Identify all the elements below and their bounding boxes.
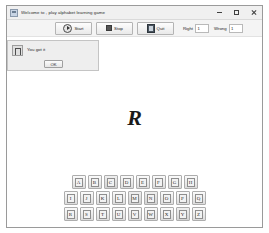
key-g-label: G — [171, 178, 179, 187]
key-z-label: Z — [195, 210, 203, 219]
minimize-icon — [217, 12, 222, 13]
key-b[interactable]: B — [88, 175, 102, 189]
close-icon — [251, 10, 257, 16]
key-row-2: I J K L M N O P Q — [64, 191, 206, 205]
key-x[interactable]: X — [160, 207, 174, 221]
key-j-label: J — [83, 194, 91, 203]
maximize-icon — [234, 10, 239, 15]
key-n[interactable]: N — [144, 191, 158, 205]
quit-button[interactable]: Quit — [137, 22, 174, 35]
app-window-icon — [10, 9, 18, 17]
close-button[interactable] — [245, 6, 262, 19]
key-e[interactable]: E — [136, 175, 150, 189]
key-h-label: H — [187, 178, 195, 187]
title-bar: Welcome to , play alphabet learning game — [7, 6, 262, 20]
key-a[interactable]: A — [72, 175, 86, 189]
key-w-label: W — [147, 210, 155, 219]
key-i[interactable]: I — [64, 191, 78, 205]
key-o[interactable]: O — [160, 191, 174, 205]
key-s[interactable]: S — [80, 207, 94, 221]
key-u[interactable]: U — [112, 207, 126, 221]
right-counter: Right 1 — [183, 24, 209, 33]
key-o-label: O — [163, 194, 171, 203]
wrong-counter-value[interactable]: 1 — [229, 24, 243, 33]
alphabet-keyboard: A B C D E F G H I J K L M N O P Q R — [7, 175, 262, 221]
window-title: Welcome to , play alphabet learning game — [21, 10, 211, 15]
key-m[interactable]: M — [128, 191, 142, 205]
key-q[interactable]: Q — [192, 191, 206, 205]
key-v-label: V — [131, 210, 139, 219]
key-m-label: M — [131, 194, 139, 203]
key-j[interactable]: J — [80, 191, 94, 205]
wrong-counter-label: Wrong — [214, 26, 227, 31]
key-z[interactable]: Z — [192, 207, 206, 221]
key-f-label: F — [155, 178, 163, 187]
key-a-label: A — [75, 178, 83, 187]
client-area: You got it OK R A B C D E F G H I J K L — [7, 37, 262, 227]
toolbar: Start Stop Quit Right 1 Wrong 1 — [7, 20, 262, 37]
key-c-label: C — [107, 178, 115, 187]
stop-square-icon — [106, 25, 112, 31]
key-row-3: R S T U V W X Y Z — [64, 207, 206, 221]
key-x-label: X — [163, 210, 171, 219]
key-b-label: B — [91, 178, 99, 187]
dialog-ok-button[interactable]: OK — [44, 60, 63, 68]
key-w[interactable]: W — [144, 207, 158, 221]
key-l-label: L — [115, 194, 123, 203]
door-exit-icon — [147, 24, 155, 33]
stop-button[interactable]: Stop — [96, 22, 133, 35]
key-v[interactable]: V — [128, 207, 142, 221]
key-r[interactable]: R — [64, 207, 78, 221]
key-q-label: Q — [195, 194, 203, 203]
minimize-button[interactable] — [211, 6, 228, 19]
wrong-counter: Wrong 1 — [214, 24, 243, 33]
right-counter-value[interactable]: 1 — [195, 24, 209, 33]
stop-button-label: Stop — [114, 26, 123, 31]
key-row-1: A B C D E F G H — [72, 175, 198, 189]
key-e-label: E — [139, 178, 147, 187]
key-p-label: P — [179, 194, 187, 203]
message-text: You got it — [27, 45, 45, 52]
key-p[interactable]: P — [176, 191, 190, 205]
key-k-label: K — [99, 194, 107, 203]
key-t[interactable]: T — [96, 207, 110, 221]
key-y[interactable]: Y — [176, 207, 190, 221]
quit-button-label: Quit — [157, 26, 165, 31]
key-t-label: T — [99, 210, 107, 219]
start-button-label: Start — [74, 26, 83, 31]
info-icon — [12, 45, 23, 56]
key-y-label: Y — [179, 210, 187, 219]
right-counter-label: Right — [183, 26, 193, 31]
prompt-letter: R — [7, 105, 262, 131]
key-d[interactable]: D — [120, 175, 134, 189]
message-row: You got it — [8, 41, 98, 56]
message-dialog: You got it OK — [7, 40, 99, 71]
play-icon — [63, 24, 72, 33]
key-r-label: R — [67, 210, 75, 219]
key-n-label: N — [147, 194, 155, 203]
key-l[interactable]: L — [112, 191, 126, 205]
key-h[interactable]: H — [184, 175, 198, 189]
key-k[interactable]: K — [96, 191, 110, 205]
maximize-button[interactable] — [228, 6, 245, 19]
app-window: Welcome to , play alphabet learning game… — [6, 5, 263, 228]
key-c[interactable]: C — [104, 175, 118, 189]
key-g[interactable]: G — [168, 175, 182, 189]
key-u-label: U — [115, 210, 123, 219]
start-button[interactable]: Start — [55, 22, 92, 35]
key-i-label: I — [67, 194, 75, 203]
key-d-label: D — [123, 178, 131, 187]
key-s-label: S — [83, 210, 91, 219]
key-f[interactable]: F — [152, 175, 166, 189]
window-controls — [211, 6, 262, 19]
